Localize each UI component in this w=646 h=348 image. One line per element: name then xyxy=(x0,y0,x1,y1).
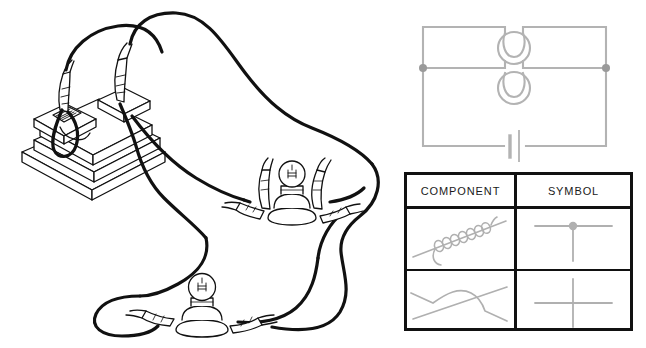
header-cell-symbol: SYMBOL xyxy=(517,175,630,206)
table-row xyxy=(407,209,630,271)
junction-node-right xyxy=(602,64,610,72)
component-symbol-table: COMPONENT SYMBOL xyxy=(404,172,633,331)
wires-crossing-photo xyxy=(407,271,517,328)
page-root: COMPONENT SYMBOL xyxy=(0,0,646,348)
junction-dot-icon xyxy=(569,222,577,230)
table-row xyxy=(407,271,630,328)
junction-node-left xyxy=(419,64,427,72)
table-header-row: COMPONENT SYMBOL xyxy=(407,175,630,209)
header-cell-component: COMPONENT xyxy=(407,175,517,206)
wires-joined-symbol xyxy=(517,209,630,269)
component-header-label: COMPONENT xyxy=(421,185,501,197)
wires-joined-photo xyxy=(407,209,517,269)
symbol-header-label: SYMBOL xyxy=(548,185,599,197)
wires-crossing-symbol xyxy=(517,271,630,328)
